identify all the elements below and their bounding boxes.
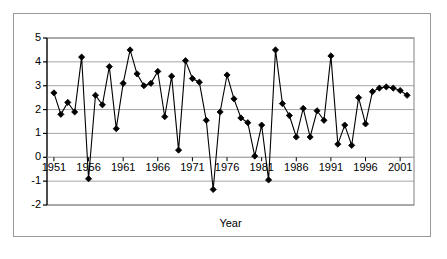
data-point-marker xyxy=(162,114,168,120)
data-point-marker xyxy=(210,186,216,192)
data-point-marker xyxy=(279,101,285,107)
data-point-marker xyxy=(328,53,334,59)
data-point-marker xyxy=(293,134,299,140)
data-point-marker xyxy=(238,115,244,121)
chart-figure: 543210-1-2 19511956196119661971197619811… xyxy=(0,0,447,259)
data-point-marker xyxy=(369,89,375,95)
data-point-marker xyxy=(349,142,355,148)
data-point-marker xyxy=(342,122,348,128)
y-tick-label: -2 xyxy=(31,199,41,210)
data-point-marker xyxy=(196,79,202,85)
data-point-marker xyxy=(51,90,57,96)
data-point-marker xyxy=(175,147,181,153)
data-point-marker xyxy=(404,92,410,98)
y-tick-label: 0 xyxy=(35,151,41,162)
data-point-marker xyxy=(155,68,161,74)
y-tick-label: 3 xyxy=(35,80,41,91)
y-tick-label: 4 xyxy=(35,56,41,67)
plot-border-rect xyxy=(47,38,414,205)
data-point-marker xyxy=(245,120,251,126)
data-point-marker xyxy=(335,141,341,147)
data-point-marker xyxy=(203,117,209,123)
plot-area: 543210-1-2 19511956196119661971197619811… xyxy=(0,0,447,259)
data-point-marker xyxy=(231,96,237,102)
y-tick-label: 5 xyxy=(35,32,41,43)
data-point-marker xyxy=(356,95,362,101)
data-point-marker xyxy=(265,177,271,183)
data-point-marker xyxy=(224,72,230,78)
plot-border xyxy=(47,38,414,205)
data-point-marker xyxy=(134,71,140,77)
data-point-marker xyxy=(397,87,403,93)
data-point-marker xyxy=(79,54,85,60)
data-point-marker xyxy=(383,84,389,90)
data-point-marker xyxy=(307,134,313,140)
x-tick-label: 2001 xyxy=(380,162,420,173)
data-point-marker xyxy=(113,126,119,132)
data-point-marker xyxy=(106,64,112,70)
data-point-marker xyxy=(286,112,292,118)
data-point-marker xyxy=(141,83,147,89)
data-point-marker xyxy=(58,111,64,117)
gridlines xyxy=(47,38,414,205)
y-tick-label: 1 xyxy=(35,127,41,138)
y-tick-label: -1 xyxy=(31,175,41,186)
data-point-marker xyxy=(362,121,368,127)
data-point-marker xyxy=(259,122,265,128)
data-point-marker xyxy=(300,105,306,111)
x-axis-title: Year xyxy=(47,217,414,229)
data-point-marker xyxy=(272,47,278,53)
y-tick-label: 2 xyxy=(35,104,41,115)
data-point-marker xyxy=(169,73,175,79)
data-point-marker xyxy=(127,47,133,53)
data-point-marker xyxy=(182,58,188,64)
data-point-marker xyxy=(252,153,258,159)
data-point-marker xyxy=(189,75,195,81)
